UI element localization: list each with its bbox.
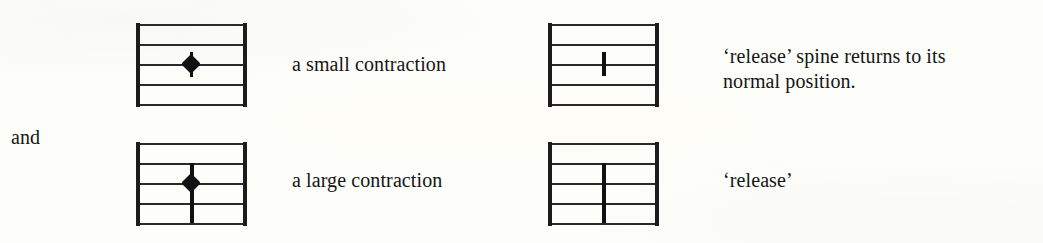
staff-release-large	[548, 143, 659, 224]
label-large-contraction: a large contraction	[292, 168, 442, 193]
barline-left-icon	[136, 142, 140, 226]
staff-line-5	[548, 104, 659, 106]
staff-line-5	[136, 223, 247, 225]
barline-right-icon	[243, 142, 247, 226]
staff-line-4	[136, 84, 247, 86]
staff-line-1	[136, 143, 247, 145]
barline-right-icon	[655, 142, 659, 226]
long-stem-icon	[190, 163, 194, 223]
staff-line-2	[136, 44, 247, 46]
staff-line-4	[548, 84, 659, 86]
label-small-contraction: a small contraction	[292, 52, 446, 77]
staff-line-1	[548, 24, 659, 26]
connector-label-and: and	[11, 125, 40, 150]
staff-line-5	[136, 104, 247, 106]
label-release-short: ‘release’	[723, 168, 793, 193]
diamond-notehead-icon	[181, 173, 201, 193]
barline-left-icon	[548, 142, 552, 226]
notation-figure: and a small contraction a large contract…	[0, 0, 1043, 243]
barline-right-icon	[243, 23, 247, 107]
barline-right-icon	[655, 23, 659, 107]
staff-line-5	[548, 223, 659, 225]
short-tick-icon	[602, 52, 606, 76]
staff-line-1	[548, 143, 659, 145]
barline-left-icon	[548, 23, 552, 107]
staff-line-2	[548, 44, 659, 46]
staff-line-1	[136, 24, 247, 26]
long-stem-icon	[602, 163, 606, 223]
staff-release-small	[548, 24, 659, 105]
barline-left-icon	[136, 23, 140, 107]
label-release-long: ‘release’ spine returns to its normal po…	[723, 44, 946, 94]
staff-large-contraction	[136, 143, 247, 224]
diamond-notehead-icon	[181, 54, 201, 74]
staff-small-contraction	[136, 24, 247, 105]
